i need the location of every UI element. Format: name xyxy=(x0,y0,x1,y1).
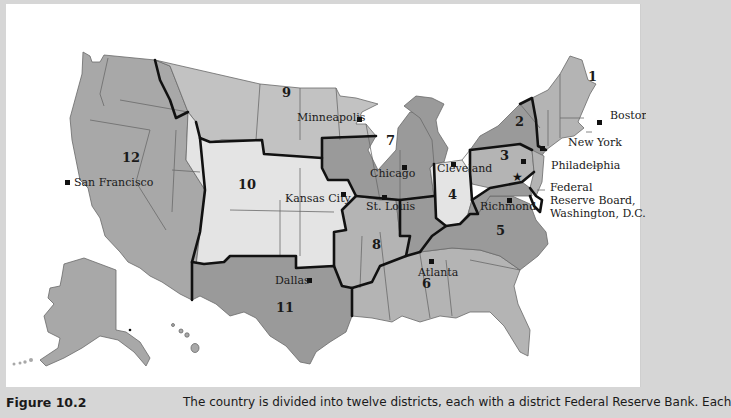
district-number-11: 11 xyxy=(276,300,294,315)
board-label-line3: Washington, D.C. xyxy=(550,207,646,220)
city-label-kansas-city: Kansas City xyxy=(285,192,352,205)
hawaii-islands xyxy=(172,324,200,353)
figure-label: Figure 10.2 xyxy=(6,395,87,410)
city-label-boston: Boston xyxy=(610,109,646,122)
city-label-minneapolis: Minneapolis xyxy=(297,111,366,124)
figure-caption: Figure 10.2 The country is divided into … xyxy=(0,393,646,418)
district-number-8: 8 xyxy=(372,237,381,252)
district-number-1: 1 xyxy=(588,69,597,84)
district-number-9: 9 xyxy=(282,85,291,100)
district-11-region xyxy=(192,256,352,364)
district-number-4: 4 xyxy=(448,187,457,202)
district-number-3: 3 xyxy=(500,148,509,163)
aleutian-islands xyxy=(13,358,34,366)
city-label-san-francisco: San Francisco xyxy=(74,176,154,189)
caption-text: The country is divided into twelve distr… xyxy=(183,395,731,409)
district-number-2: 2 xyxy=(515,114,524,129)
star-icon: ★ xyxy=(512,170,523,184)
city-label-st-louis: St. Louis xyxy=(366,200,415,213)
city-label-philadelphia: Philadelphia xyxy=(551,159,621,172)
city-label-new-york: New York xyxy=(568,136,622,149)
city-label-dallas: Dallas xyxy=(275,274,310,287)
city-label-atlanta: Atlanta xyxy=(417,266,459,279)
district-number-5: 5 xyxy=(496,223,505,238)
board-label-line1: Federal xyxy=(550,181,593,194)
district-number-7: 7 xyxy=(386,133,395,148)
alaska-region xyxy=(40,258,150,366)
city-label-chicago: Chicago xyxy=(370,167,416,180)
district-number-12: 12 xyxy=(122,150,140,165)
city-label-richmond: Richmond xyxy=(480,200,536,213)
district-number-10: 10 xyxy=(238,177,256,192)
board-label-line2: Reserve Board, xyxy=(550,194,636,207)
city-label-cleveland: Cleveland xyxy=(437,162,492,175)
